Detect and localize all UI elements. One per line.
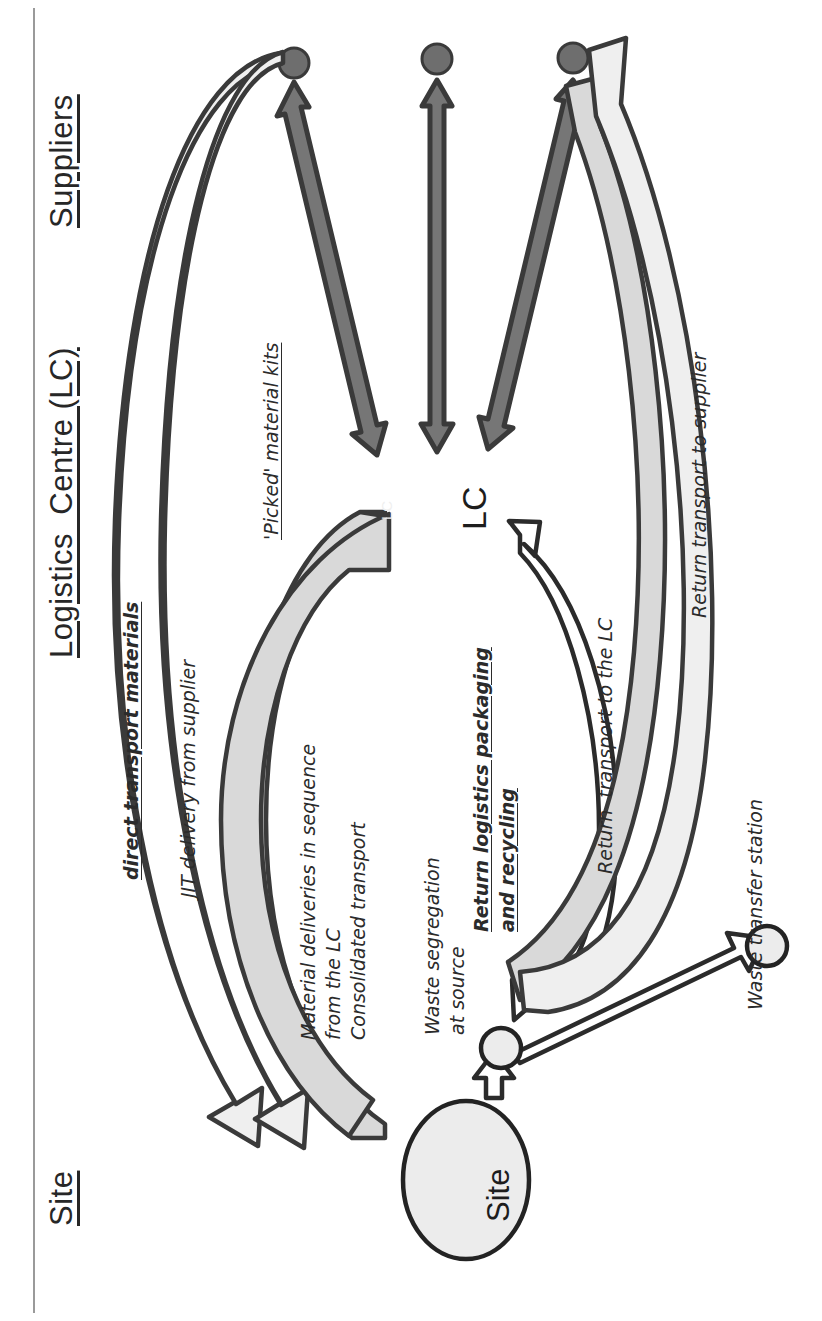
flow-label-return-transport-to-supplier: Return transport to supplier [686, 353, 712, 618]
flow-label-waste-transfer-station: Waste transfer station [742, 799, 768, 1010]
flow-label-direct-transport-materials: direct transport materials [118, 602, 144, 880]
node-label-site: Site [481, 1169, 517, 1222]
flow-label-picked-material-kits: 'Picked' material kits [258, 343, 284, 540]
diagram-canvas: .dk{fill:#767676;stroke:#3a3a3a;stroke-w… [0, 0, 822, 1321]
node-waste-segregation-point [481, 1028, 521, 1068]
column-header-site: Site [44, 1171, 80, 1226]
flow-label-waste-segregation: Waste segregation [419, 857, 445, 1035]
flow-label-return-transport-to-the-lc: Return transport to the LC [592, 618, 618, 874]
node-label-lc: LC [455, 487, 494, 530]
flow-arrow-supplier-lc-centre [421, 80, 453, 452]
lc-watermark: LC [378, 501, 395, 520]
flow-label-at-source: at source [444, 946, 470, 1035]
flow-label-jit-delivery-from-supplier: JIT delivery from supplier [175, 660, 201, 898]
flow-label-consolidated-transport: Consolidated transport [345, 822, 371, 1040]
column-header-logistics-centre: Logistics Centre (LC) [44, 347, 80, 658]
flow-label-and-recycling: and recycling [494, 788, 520, 932]
flow-arrow-supplier-lc-right [479, 80, 588, 449]
column-header-suppliers: Suppliers [44, 94, 80, 228]
flow-label-from-the-lc: from the LC [320, 928, 346, 1040]
node-supplier-3 [558, 43, 588, 73]
flow-label-material-deliveries-in-sequence: Material deliveries in sequence [295, 744, 321, 1040]
flow-arrow-picked-material-kits [277, 82, 386, 455]
node-supplier-2 [422, 44, 452, 74]
flow-label-return-logistics-packaging: Return logistics packaging [468, 647, 494, 932]
